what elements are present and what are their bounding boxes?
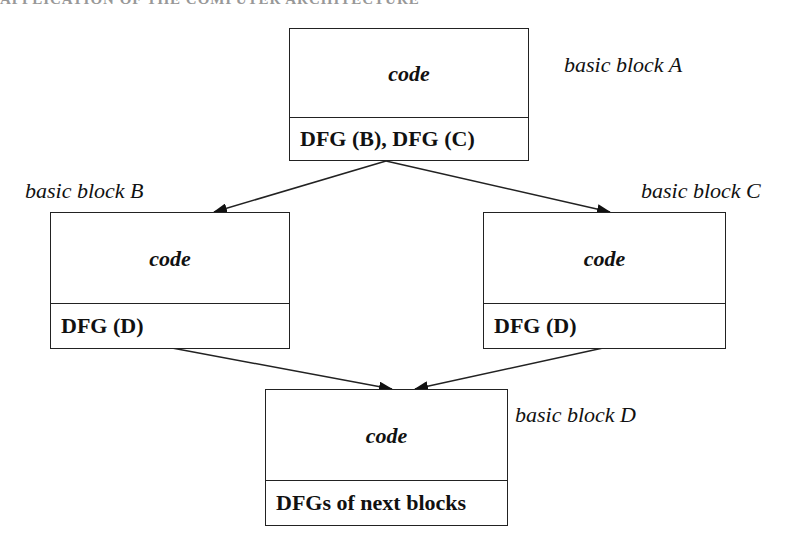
label-basic-block-c: basic block C (641, 178, 761, 204)
edge-b-to-d (172, 348, 392, 389)
block-a-dfg: DFG (B), DFG (C) (290, 117, 528, 160)
block-b-code: code (51, 213, 289, 305)
block-a-code: code (290, 29, 528, 119)
block-d-code: code (266, 390, 507, 482)
edge-a-to-c (386, 161, 610, 212)
basic-block-c: code DFG (D) (483, 212, 726, 349)
basic-block-d: code DFGs of next blocks (265, 389, 508, 526)
block-c-code: code (484, 213, 725, 305)
label-basic-block-b: basic block B (25, 178, 144, 204)
edge-c-to-d (415, 348, 603, 389)
edge-a-to-b (214, 161, 386, 212)
block-d-dfg: DFGs of next blocks (266, 480, 507, 525)
label-basic-block-d: basic block D (515, 402, 636, 428)
basic-block-b: code DFG (D) (50, 212, 290, 349)
block-c-dfg: DFG (D) (484, 303, 725, 348)
basic-block-a: code DFG (B), DFG (C) (289, 28, 529, 161)
label-basic-block-a: basic block A (564, 52, 682, 78)
block-b-dfg: DFG (D) (51, 303, 289, 348)
